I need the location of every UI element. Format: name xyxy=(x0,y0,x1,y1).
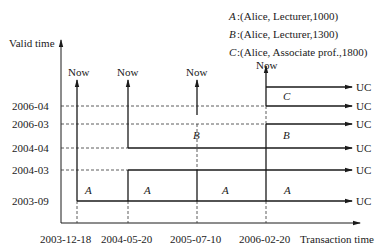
uc-label: UC xyxy=(356,81,371,93)
region-label-a: A xyxy=(221,184,229,196)
now-label: Now xyxy=(117,66,138,78)
x-tick-label: 2006-02-20 xyxy=(239,233,291,245)
x-tick-label: 2004-05-20 xyxy=(101,233,153,245)
now-label: Now xyxy=(68,66,89,78)
y-tick-label: 2004-04 xyxy=(12,142,49,154)
y-tick-label: 2004-03 xyxy=(12,164,49,176)
uc-label: UC xyxy=(356,100,371,112)
now-label: Now xyxy=(186,66,207,78)
bitemporal-diagram: A :(Alice, Lecturer,1000) B :(Alice, Lec… xyxy=(0,0,386,249)
region-label-a: A xyxy=(283,184,291,196)
x-tick-label: 2005-07-10 xyxy=(170,233,222,245)
x-axis-label: Transaction time xyxy=(300,233,374,245)
now-label: Now xyxy=(256,59,277,71)
y-tick-label: 2006-04 xyxy=(12,100,49,112)
legend-text-a: :(Alice, Lecturer,1000) xyxy=(237,10,339,23)
legend-text-b: :(Alice, Lecturer,1300) xyxy=(237,28,339,41)
uc-label: UC xyxy=(356,195,371,207)
y-axis-label: Valid time xyxy=(9,37,55,49)
uc-label: UC xyxy=(356,118,371,130)
region-label-a: A xyxy=(84,184,92,196)
uc-label: UC xyxy=(356,164,371,176)
region-label-b: B xyxy=(193,129,200,141)
uc-label: UC xyxy=(356,142,371,154)
legend-text-c: :(Alice, Associate prof.,1800) xyxy=(237,46,368,59)
x-tick-label: 2003-12-18 xyxy=(40,233,92,245)
y-tick-label: 2003-09 xyxy=(12,195,49,207)
legend: A :(Alice, Lecturer,1000) B :(Alice, Lec… xyxy=(228,10,368,59)
y-tick-label: 2006-03 xyxy=(12,118,49,130)
legend-key-c: C xyxy=(229,46,237,58)
legend-key-b: B xyxy=(229,28,236,40)
legend-key-a: A xyxy=(228,10,236,22)
region-label-c: C xyxy=(283,90,291,102)
region-label-a: A xyxy=(143,184,151,196)
region-label-b: B xyxy=(283,129,290,141)
